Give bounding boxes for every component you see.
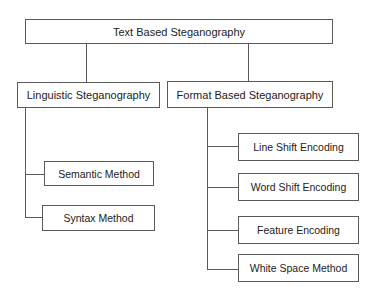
node-label: Linguistic Steganography <box>27 89 151 101</box>
node-feature-encoding: Feature Encoding <box>238 216 359 244</box>
connector-feature <box>207 230 238 231</box>
node-word-shift-encoding: Word Shift Encoding <box>238 173 359 201</box>
connector-root-format <box>248 43 249 81</box>
node-format-based-steganography: Format Based Steganography <box>167 81 333 108</box>
connector-linguistic-trunk <box>25 107 26 218</box>
node-white-space-method: White Space Method <box>238 254 359 282</box>
connector-root-linguistic <box>86 43 87 82</box>
node-text-based-steganography: Text Based Steganography <box>25 19 333 44</box>
node-label: Feature Encoding <box>257 224 340 236</box>
node-label: White Space Method <box>250 262 347 274</box>
connector-word-shift <box>207 187 238 188</box>
node-label: Line Shift Encoding <box>253 141 343 153</box>
node-line-shift-encoding: Line Shift Encoding <box>238 133 359 161</box>
connector-semantic <box>25 174 44 175</box>
connector-line-shift <box>207 146 238 147</box>
node-label: Word Shift Encoding <box>251 181 347 193</box>
connector-white-space <box>207 269 238 270</box>
node-label: Text Based Steganography <box>113 26 245 38</box>
node-label: Syntax Method <box>63 212 133 224</box>
connector-format-trunk <box>207 107 208 270</box>
node-linguistic-steganography: Linguistic Steganography <box>17 82 160 108</box>
connector-syntax <box>25 217 42 218</box>
node-label: Semantic Method <box>58 168 140 180</box>
node-label: Format Based Steganography <box>177 89 324 101</box>
node-syntax-method: Syntax Method <box>42 205 155 231</box>
node-semantic-method: Semantic Method <box>44 161 154 186</box>
